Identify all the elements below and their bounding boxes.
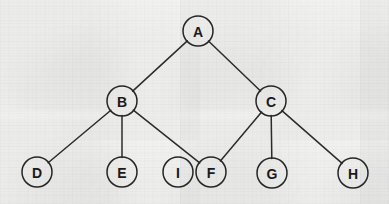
node-label-h: H	[348, 166, 358, 182]
graph-edge-a-b	[133, 41, 188, 91]
graph-svg: ABCDEIFGH	[0, 0, 389, 204]
graph-node-i[interactable]: I	[163, 157, 193, 187]
node-label-b: B	[117, 94, 127, 110]
graph-node-f[interactable]: F	[196, 157, 226, 187]
graph-node-c[interactable]: C	[256, 86, 286, 116]
graph-node-e[interactable]: E	[107, 157, 137, 187]
graph-node-d[interactable]: D	[22, 157, 52, 187]
graph-edge-c-h	[282, 111, 342, 164]
edges-layer	[48, 41, 342, 164]
graph-node-a[interactable]: A	[183, 16, 213, 46]
graph-node-b[interactable]: B	[107, 86, 137, 116]
graph-node-h[interactable]: H	[338, 158, 368, 188]
nodes-layer: ABCDEIFGH	[22, 16, 368, 188]
node-label-d: D	[32, 165, 42, 181]
node-label-i: I	[176, 165, 180, 181]
node-label-f: F	[207, 165, 216, 181]
graph-edge-b-d	[48, 110, 111, 162]
graph-node-g[interactable]: G	[257, 158, 287, 188]
node-label-c: C	[266, 94, 276, 110]
graph-edge-c-f	[220, 112, 261, 161]
graph-diagram-canvas: ABCDEIFGH	[0, 0, 389, 204]
node-label-a: A	[193, 24, 203, 40]
graph-edge-a-c	[208, 41, 260, 91]
graph-edge-c-g	[271, 115, 272, 158]
node-label-g: G	[267, 166, 278, 182]
graph-edge-b-f	[133, 110, 199, 163]
node-label-e: E	[117, 165, 126, 181]
